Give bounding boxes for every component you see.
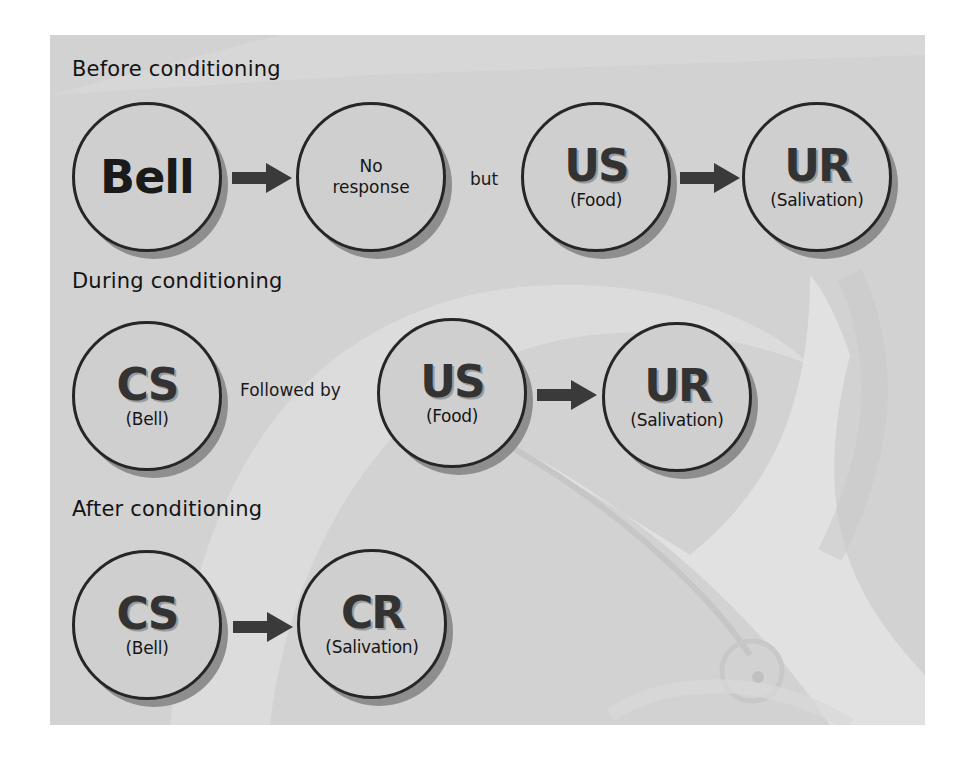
- node-abbr: CS: [117, 363, 178, 407]
- node-ur-before: UR (Salivation): [742, 102, 892, 252]
- node-sub: (Salivation): [770, 190, 863, 210]
- node-abbr: US: [564, 144, 627, 188]
- node-sub: (Salivation): [325, 637, 418, 657]
- node-abbr: US: [420, 360, 483, 404]
- node-us-during: US (Food): [377, 318, 527, 468]
- node-label-line1: No: [359, 156, 382, 177]
- node-no-response: No response: [296, 102, 446, 252]
- node-abbr: UR: [784, 144, 850, 188]
- node-abbr: UR: [644, 364, 710, 408]
- node-bell: Bell: [72, 102, 222, 252]
- connector-but: but: [470, 169, 498, 189]
- arrow-right-icon: [537, 380, 597, 410]
- connector-followed-by: Followed by: [240, 380, 341, 400]
- arrow-right-icon: [233, 612, 293, 642]
- node-abbr: CR: [341, 591, 403, 635]
- section-heading-after: After conditioning: [72, 497, 262, 521]
- node-sub: (Food): [570, 190, 622, 210]
- node-sub: (Bell): [125, 409, 168, 429]
- diagram-panel: Before conditioning Bell No response but…: [50, 35, 925, 725]
- node-ur-during: UR (Salivation): [602, 322, 752, 472]
- node-sub: (Food): [426, 406, 478, 426]
- arrow-right-icon: [232, 163, 292, 193]
- node-cr-after: CR (Salivation): [297, 549, 447, 699]
- section-heading-before: Before conditioning: [72, 57, 281, 81]
- node-us-before: US (Food): [521, 102, 671, 252]
- node-cs-after: CS (Bell): [72, 550, 222, 700]
- node-abbr: CS: [117, 592, 178, 636]
- section-heading-during: During conditioning: [72, 269, 283, 293]
- node-label: Bell: [100, 150, 194, 204]
- node-sub: (Bell): [125, 638, 168, 658]
- node-cs-during: CS (Bell): [72, 321, 222, 471]
- node-sub: (Salivation): [630, 410, 723, 430]
- node-label-line2: response: [332, 177, 409, 198]
- arrow-right-icon: [680, 163, 740, 193]
